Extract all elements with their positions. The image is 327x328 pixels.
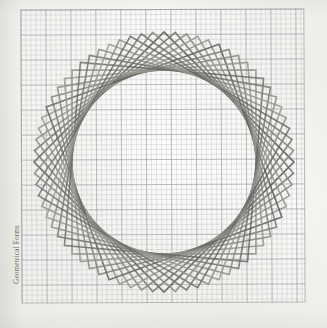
graph-paper-grid — [20, 8, 305, 303]
scanned-page: Geometrical Forms — [0, 0, 327, 328]
margin-title-label: Geometrical Forms — [13, 188, 21, 284]
graph-paper-wrapper — [0, 0, 327, 328]
